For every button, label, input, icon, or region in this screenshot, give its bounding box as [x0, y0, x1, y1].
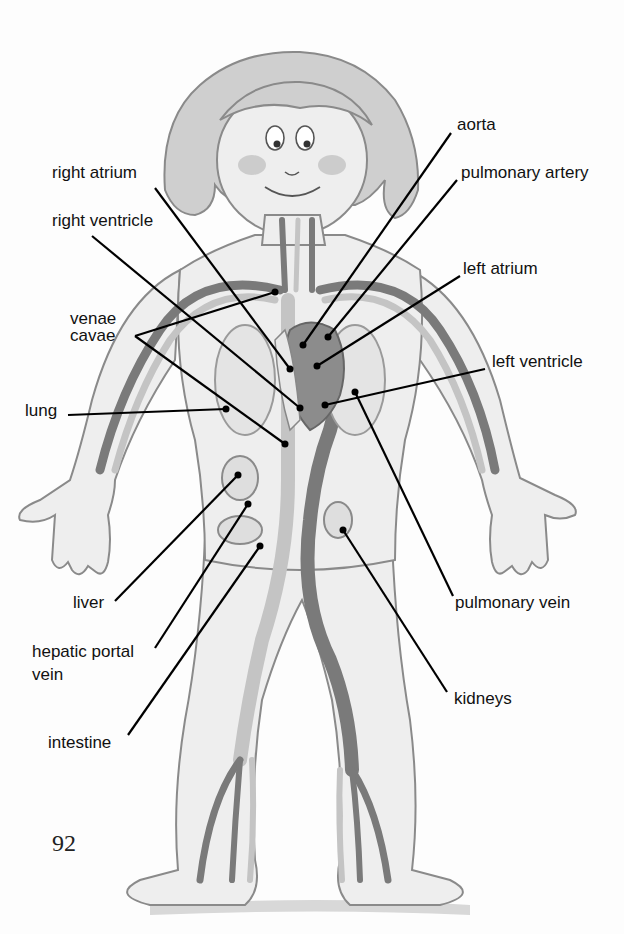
- label-venae-cavae-line1: venae: [70, 310, 116, 327]
- circulatory-system-illustration: [0, 0, 624, 934]
- label-venae-cavae-line2: cavae: [70, 327, 115, 344]
- label-left-atrium: left atrium: [463, 260, 538, 277]
- label-kidneys: kidneys: [454, 690, 512, 707]
- label-liver: liver: [73, 594, 104, 611]
- label-pulmonary-artery: pulmonary artery: [461, 164, 589, 181]
- label-right-ventricle: right ventricle: [52, 212, 153, 229]
- label-right-atrium: right atrium: [52, 164, 137, 181]
- label-lung: lung: [25, 402, 57, 419]
- page-number: 92: [52, 830, 76, 857]
- label-intestine: intestine: [48, 734, 111, 751]
- label-hepatic-portal-vein-line1: hepatic portal: [32, 643, 134, 660]
- label-hepatic-portal-vein-line2: vein: [32, 666, 63, 683]
- label-aorta: aorta: [457, 116, 496, 133]
- label-left-ventricle: left ventricle: [492, 353, 583, 370]
- label-pulmonary-vein: pulmonary vein: [455, 594, 570, 611]
- diagram-page: aorta pulmonary artery right atrium righ…: [0, 0, 624, 934]
